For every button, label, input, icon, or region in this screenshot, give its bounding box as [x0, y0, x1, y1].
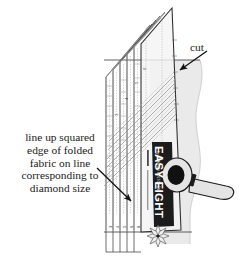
- ruler-scale-number-4: 8: [136, 226, 141, 228]
- ruler-diagonal-number-3: 6: [142, 68, 147, 70]
- ruler-diagonal-number-1: 4: [124, 98, 129, 100]
- instruction-line-4: corresponding to: [6, 169, 114, 182]
- ruler-brand-subtitle: by SHARON HULTGREN: [156, 151, 160, 191]
- ruler-scale-number-3: 6: [129, 226, 134, 228]
- eight-point-star-icon: [147, 225, 169, 247]
- cutter-handle: [189, 178, 234, 199]
- diagram-svg: [0, 0, 247, 260]
- figure-canvas: line up squared edge of folded fabric on…: [0, 0, 247, 260]
- instruction-line-3: fabric on line: [6, 157, 114, 170]
- instruction-callout: line up squared edge of folded fabric on…: [6, 131, 114, 195]
- instruction-line-1: line up squared: [6, 131, 114, 144]
- cut-callout-label: cut: [190, 41, 204, 54]
- ruler-scale-number-1: 4: [115, 226, 120, 228]
- instruction-line-2: edge of folded: [6, 144, 114, 157]
- cutter-blade: [168, 165, 185, 185]
- ruler-diagonal-number-2: 5: [134, 82, 139, 84]
- ruler-diagonal-number-0: 3: [114, 114, 119, 116]
- ruler-scale-number-0: 3: [108, 226, 113, 228]
- instruction-line-5: diamond size: [6, 182, 114, 195]
- ruler-scale-number-2: 5: [122, 226, 127, 228]
